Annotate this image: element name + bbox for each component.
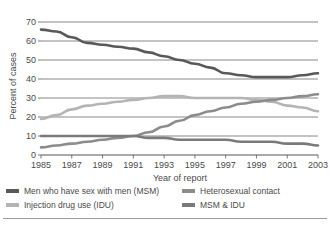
y-axis-tick-labels: 010203040506070 bbox=[26, 17, 41, 160]
chart-legend: Men who have sex with men (MSM) Heterose… bbox=[0, 184, 330, 214]
legend-row: Injection drug use (IDU) MSM & IDU bbox=[0, 198, 330, 212]
x-tick-label: 1985 bbox=[31, 160, 51, 170]
x-tick-label: 2003 bbox=[308, 160, 328, 170]
y-tick-label: 10 bbox=[26, 131, 36, 141]
x-tick-label: 1987 bbox=[62, 160, 82, 170]
x-tick-label: 1999 bbox=[246, 160, 266, 170]
x-tick-label: 1989 bbox=[93, 160, 113, 170]
legend-item-heterosexual: Heterosexual contact bbox=[178, 186, 330, 196]
legend-label: Injection drug use (IDU) bbox=[24, 200, 114, 210]
y-tick-label: 50 bbox=[26, 55, 36, 65]
legend-swatch-icon bbox=[182, 203, 195, 207]
y-tick-label: 60 bbox=[26, 36, 36, 46]
legend-item-idu: Injection drug use (IDU) bbox=[0, 200, 178, 210]
y-tick-label: 20 bbox=[26, 112, 36, 122]
chart-figure: 010203040506070 198519871989199119931995… bbox=[0, 0, 330, 226]
legend-swatch-icon bbox=[6, 203, 19, 207]
x-tick-label: 1993 bbox=[154, 160, 174, 170]
x-tick-label: 1997 bbox=[216, 160, 236, 170]
legend-item-msm-idu: MSM & IDU bbox=[178, 200, 330, 210]
data-series-group bbox=[41, 30, 318, 148]
x-tick-label: 2001 bbox=[277, 160, 297, 170]
plot-area: 010203040506070 198519871989199119931995… bbox=[0, 0, 330, 185]
legend-row: Men who have sex with men (MSM) Heterose… bbox=[0, 184, 330, 198]
legend-label: Men who have sex with men (MSM) bbox=[24, 186, 159, 196]
legend-label: Heterosexual contact bbox=[200, 186, 280, 196]
x-axis-tick-labels: 1985198719891991199319951997199920012003 bbox=[31, 160, 328, 170]
data-line-series-0 bbox=[41, 30, 318, 78]
y-axis-title: Percent of cases bbox=[8, 52, 18, 120]
y-tick-label: 70 bbox=[26, 17, 36, 27]
legend-swatch-icon bbox=[6, 189, 19, 193]
x-axis-ticks bbox=[41, 155, 318, 159]
grid-lines bbox=[41, 22, 318, 136]
y-tick-label: 0 bbox=[31, 150, 36, 160]
x-tick-label: 1995 bbox=[185, 160, 205, 170]
legend-label: MSM & IDU bbox=[200, 200, 245, 210]
footer-rule bbox=[3, 218, 327, 219]
x-tick-label: 1991 bbox=[123, 160, 143, 170]
y-tick-label: 40 bbox=[26, 74, 36, 84]
line-chart-svg: 010203040506070 198519871989199119931995… bbox=[0, 0, 330, 185]
legend-swatch-icon bbox=[182, 189, 195, 193]
x-axis-title: Year of report bbox=[153, 173, 208, 183]
legend-item-msm: Men who have sex with men (MSM) bbox=[0, 186, 178, 196]
y-tick-label: 30 bbox=[26, 93, 36, 103]
